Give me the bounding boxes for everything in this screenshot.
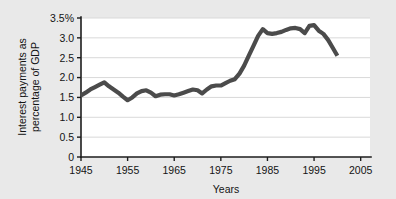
chart-figure: 3.5%3.02.52.01.51.00.50 1945195519651975… bbox=[0, 0, 396, 199]
x-tick-label: 1945 bbox=[69, 164, 93, 176]
y-tick-label: 0 bbox=[68, 151, 74, 163]
y-axis-title-line2: percentage of GDP bbox=[29, 42, 41, 132]
y-tick-label: 2.0 bbox=[59, 71, 74, 83]
x-axis-title: Years bbox=[213, 183, 239, 195]
x-tick-label: 1985 bbox=[256, 164, 280, 176]
y-tick-label: 1.0 bbox=[59, 111, 74, 123]
y-tick-label: 0.5 bbox=[59, 131, 74, 143]
y-tick-label: 3.0 bbox=[59, 32, 74, 44]
y-axis-title-line1: Interest payments as bbox=[16, 38, 28, 135]
x-tick-label: 1975 bbox=[209, 164, 233, 176]
x-tick-label: 1995 bbox=[302, 164, 326, 176]
chart-svg: 3.5%3.02.52.01.51.00.50 1945195519651975… bbox=[0, 0, 396, 199]
y-tick-label: 2.5 bbox=[59, 52, 74, 64]
y-tick-label: 3.5% bbox=[50, 12, 74, 24]
x-tick-label: 1955 bbox=[116, 164, 140, 176]
y-tick-label: 1.5 bbox=[59, 91, 74, 103]
x-tick-label: 2005 bbox=[349, 164, 373, 176]
x-tick-label: 1965 bbox=[163, 164, 187, 176]
